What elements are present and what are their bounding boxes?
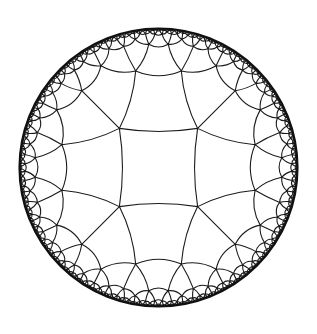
geodesic-edges	[20, 29, 297, 306]
tiling-canvas: Hyperbolic {4,5} tiling (Poincaré disk)	[0, 0, 317, 334]
hyperbolic-tiling-svg	[0, 0, 317, 334]
tile-edges	[20, 29, 297, 306]
